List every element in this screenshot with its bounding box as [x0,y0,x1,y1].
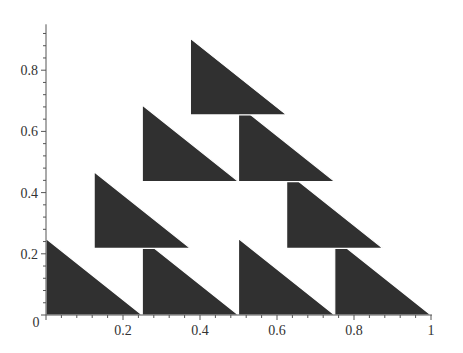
triangle-8 [190,38,286,115]
plot-area [46,38,431,315]
x-tick-label: 0.8 [345,323,363,338]
triangle-2 [239,239,335,316]
triangle-0 [46,239,142,316]
y-tick-label: 0.4 [21,186,39,201]
chart: 00.20.40.60.81 0.20.40.60.8 [0,0,463,353]
x-tick-label: 0.6 [268,323,286,338]
y-tick-label: 0.2 [21,247,39,262]
y-tick-label: 0.6 [21,124,39,139]
y-axis: 0.20.40.60.8 [21,24,47,315]
triangle-7 [239,105,335,182]
y-tick-label: 0.8 [21,63,39,78]
triangle-4 [94,172,190,249]
triangle-5 [287,172,383,249]
x-tick-label: 0 [33,315,40,330]
x-tick-label: 1 [428,323,435,338]
x-axis: 00.20.40.60.81 [33,315,435,338]
triangle-1 [142,239,238,316]
triangle-6 [142,105,238,182]
x-tick-label: 0.4 [191,323,209,338]
triangle-3 [335,239,431,316]
x-tick-label: 0.2 [114,323,132,338]
